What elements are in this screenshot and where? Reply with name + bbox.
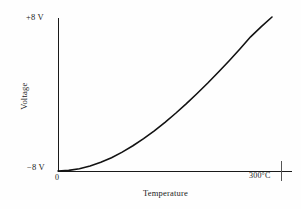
voltage-temperature-curve	[58, 17, 272, 171]
chart-figure: +8 V −8 V 0 300°C Temperature Voltage	[0, 0, 301, 209]
x-axis-max-tick-label: 300°C	[249, 172, 271, 180]
y-axis-bottom-tick-label: −8 V	[27, 163, 45, 172]
y-axis-top-tick-label: +8 V	[26, 13, 44, 22]
x-axis-title: Temperature	[143, 189, 188, 198]
y-axis-title: Voltage	[20, 68, 29, 124]
x-axis-zero-tick-label: 0	[55, 174, 59, 182]
